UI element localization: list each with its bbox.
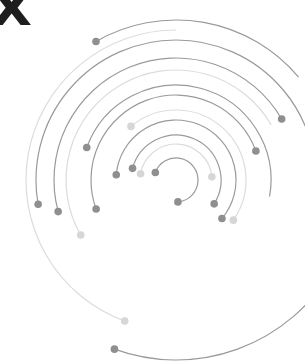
- node-dot: [92, 205, 100, 213]
- node-dot: [34, 201, 42, 209]
- orbit-arc: [133, 135, 221, 204]
- node-dot: [127, 123, 135, 131]
- node-dot: [210, 200, 218, 208]
- node-dot: [218, 215, 226, 223]
- node-dot: [278, 115, 286, 123]
- orbit-graphic: [0, 0, 305, 362]
- node-dot: [77, 231, 85, 239]
- node-dot: [208, 173, 216, 181]
- node-dot: [54, 208, 62, 216]
- orbit-arc: [87, 85, 271, 196]
- orbit-arc: [141, 144, 212, 177]
- node-dot: [230, 216, 238, 224]
- orbit-arc: [114, 270, 305, 360]
- node-dot: [121, 317, 129, 325]
- node-dot: [174, 198, 182, 206]
- node-dot: [129, 165, 137, 173]
- node-dot: [252, 147, 260, 155]
- orbit-arc: [91, 95, 256, 209]
- node-dot: [92, 38, 100, 46]
- node-dot: [112, 171, 120, 179]
- node-dot: [152, 169, 160, 177]
- node-dot: [111, 345, 119, 353]
- node-dot: [137, 170, 145, 178]
- orbit-arc: [36, 40, 305, 204]
- node-dot: [83, 144, 91, 152]
- orbit-arc: [155, 158, 198, 202]
